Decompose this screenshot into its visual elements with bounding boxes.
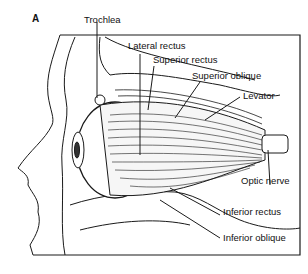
label-trochlea: Trochlea — [84, 15, 121, 25]
label-inferior-rectus: Inferior rectus — [223, 207, 281, 217]
label-superior-oblique: Superior oblique — [192, 71, 261, 81]
label-inferior-oblique: Inferior oblique — [223, 233, 286, 243]
label-superior-rectus: Superior rectus — [153, 55, 217, 65]
label-lateral-rectus: Lateral rectus — [128, 41, 186, 51]
label-optic-nerve: Optic nerve — [241, 176, 290, 186]
label-levator: Levator — [243, 91, 275, 101]
